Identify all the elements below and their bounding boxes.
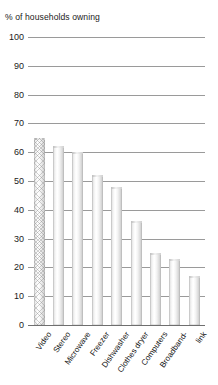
bar xyxy=(72,152,83,325)
bar-top-cap xyxy=(92,175,103,177)
bar xyxy=(150,253,161,325)
bar-top-cap xyxy=(53,146,64,148)
bar-top-cap xyxy=(72,152,83,154)
bar-chart: % of households owning 10090807060504030… xyxy=(0,0,218,385)
y-axis-tick-label: 40 xyxy=(0,205,24,215)
x-axis-labels: VideoStereoMicrowaveFreezerDishwasherClo… xyxy=(28,330,218,385)
y-axis-tick-label: 30 xyxy=(0,234,24,244)
bar-top-cap xyxy=(34,138,45,140)
bar xyxy=(131,221,142,325)
bar-top-cap xyxy=(169,259,180,261)
y-axis-tick-label: 0 xyxy=(0,320,24,330)
bar-top-cap xyxy=(131,221,142,223)
x-axis-tick-label: link xyxy=(194,330,208,345)
chart-title: % of households owning xyxy=(5,12,100,22)
bar-top-cap xyxy=(111,187,122,189)
y-axis-tick-label: 80 xyxy=(0,90,24,100)
y-axis-tick-label: 60 xyxy=(0,147,24,157)
bar xyxy=(92,175,103,325)
bar-top-cap xyxy=(189,276,200,278)
y-axis-tick-label: 50 xyxy=(0,176,24,186)
x-axis-tick-label-line: link xyxy=(194,330,208,345)
bar-top-cap xyxy=(150,253,161,255)
bar xyxy=(111,187,122,325)
y-axis-tick-label: 90 xyxy=(0,61,24,71)
bar-series xyxy=(28,30,205,330)
bar xyxy=(53,146,64,325)
y-axis-tick-label: 10 xyxy=(0,291,24,301)
y-axis-tick-label: 70 xyxy=(0,118,24,128)
bar xyxy=(169,259,180,325)
bar xyxy=(189,276,200,325)
y-axis-tick-label: 20 xyxy=(0,262,24,272)
bar xyxy=(34,138,45,325)
plot-area: 1009080706050403020100 xyxy=(28,30,205,330)
y-axis-tick-label: 100 xyxy=(0,32,24,42)
